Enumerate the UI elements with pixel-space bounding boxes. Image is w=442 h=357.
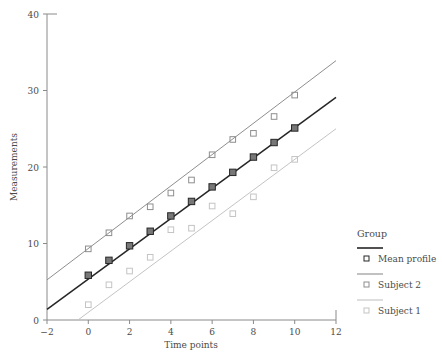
marker-mean-profile [271,139,277,145]
y-tick-label: 10 [28,239,40,249]
legend-title: Group [357,228,387,239]
scatter-plot-svg: −2024681012 010203040 Time points Measur… [0,0,442,357]
legend-label-subject-2: Subject 2 [378,280,421,290]
x-axis-label: Time points [164,340,218,350]
y-tick-label: 40 [28,10,40,20]
x-tick-label: 2 [127,327,133,337]
marker-mean-profile [147,228,153,234]
x-tick-label: −2 [40,327,53,337]
marker-mean-profile [188,198,194,204]
y-tick-label: 20 [28,163,40,173]
marker-mean-profile [250,154,256,160]
legend-label-subject-1: Subject 1 [378,306,421,316]
marker-mean-profile [168,213,174,219]
legend-label-mean-profile: Mean profile [378,254,436,264]
marker-mean-profile [126,243,132,249]
marker-mean-profile [106,257,112,263]
marker-mean-profile [85,272,91,278]
y-tick-label: 0 [33,316,39,326]
marker-mean-profile [230,169,236,175]
x-tick-label: 8 [251,327,257,337]
marker-mean-profile [292,125,298,131]
y-axis-label: Measurements [9,133,19,201]
marker-mean-profile [209,184,215,190]
x-tick-label: 10 [289,327,301,337]
y-tick-label: 30 [28,86,40,96]
chart-figure: −2024681012 010203040 Time points Measur… [0,0,442,357]
x-tick-label: 0 [85,327,91,337]
x-tick-label: 6 [209,327,215,337]
chart-background [0,0,442,357]
x-tick-label: 4 [168,327,174,337]
x-tick-label: 12 [330,327,341,337]
